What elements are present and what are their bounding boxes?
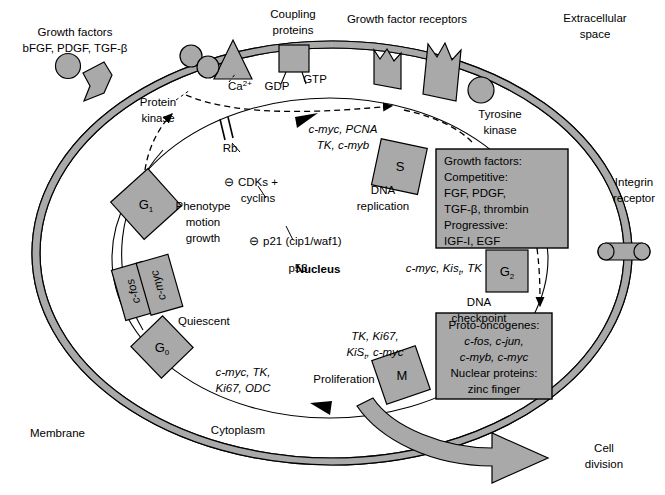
proto-oncogenes-box-line-3: Nuclear proteins: <box>451 367 538 379</box>
growth-factors-box-line-3: TGF-β, thrombin <box>444 203 529 215</box>
phenotype-label-line3: growth <box>186 232 221 244</box>
p21-inhibit-symbol: ⊖ <box>249 235 259 247</box>
dna-checkpoint-label-line2: checkpoint <box>452 312 508 324</box>
g0-genes-line1: c-myc, TK, <box>216 366 271 378</box>
growth-factors-box-line-1: Competitive: <box>444 171 508 183</box>
dna-replication-label-line2: replication <box>357 200 409 212</box>
dna-replication-label-line1: DNA <box>371 184 396 196</box>
growth-factor-receptors-label: Growth factor receptors <box>347 13 467 25</box>
cytoplasm-label: Cytoplasm <box>211 424 265 436</box>
growth-factors-box-line-2: FGF, PDGF, <box>444 187 506 199</box>
p21-label: p21 (cip1/waf1) <box>263 235 342 247</box>
cell-cycle-diagram-svg: G1 G0 S G2 M c-fos c-myc Growth factors:… <box>0 0 665 495</box>
protein-kinase-label-line2: kinase <box>141 112 174 124</box>
calcium-ion-label: Ca2+ <box>228 79 252 92</box>
cdks-inhibit-symbol: ⊖ <box>224 176 234 188</box>
quiescent-label: Quiescent <box>178 315 231 327</box>
growth-factor-receptor-small <box>374 49 401 89</box>
tyrosine-kinase-icon <box>468 77 494 103</box>
growth-factors-box-line-5: IGF-I, EGF <box>444 235 500 247</box>
cell-division-label-line2: division <box>585 458 623 470</box>
proto-oncogenes-box-line-4: zinc finger <box>468 383 521 395</box>
rb-label: Rb <box>223 142 238 154</box>
growth-factor-receptor-large <box>423 43 461 101</box>
g1-s-genes-line2: TK, c-myb <box>317 139 370 151</box>
growth-factor-ligand-icon <box>56 54 81 79</box>
integrin-receptor-label-line1: Integrin <box>615 176 653 188</box>
phase-box-g2[interactable]: G2 <box>486 250 528 292</box>
phenotype-label-line2: motion <box>186 216 221 228</box>
g1-s-genes-line1: c-myc, PCNA <box>309 123 378 135</box>
diagram-canvas: G1 G0 S G2 M c-fos c-myc Growth factors:… <box>0 0 665 495</box>
phase-box-s-label: S <box>396 159 405 174</box>
phenotype-label-line1: Phenotype <box>176 200 231 212</box>
growth-factors-label-line2: bFGF, PDGF, TGF-β <box>23 42 128 54</box>
cdks-label-line1: CDKs + <box>238 176 278 188</box>
proliferation-label: Proliferation <box>313 373 374 385</box>
cell-division-label-line1: Cell <box>594 442 614 454</box>
m-genes-line1: TK, Ki67, <box>351 330 398 342</box>
membrane-label: Membrane <box>30 427 85 439</box>
extracellular-space-label-line2: space <box>580 28 611 40</box>
gtp-label: GTP <box>303 73 327 85</box>
extracellular-space-label-line1: Extracellular <box>563 12 626 24</box>
cdks-label-line2: cyclins <box>241 192 276 204</box>
dna-checkpoint-label-line1: DNA <box>467 296 492 308</box>
gdp-label: GDP <box>265 80 290 92</box>
growth-factors-box-line-4: Progressive: <box>444 219 508 231</box>
integrin-receptor-icon <box>598 243 650 260</box>
tyrosine-kinase-label-line2: kinase <box>483 124 516 136</box>
phase-box-m-label: M <box>397 368 408 383</box>
growth-factors-label-line1: Growth factors <box>38 26 113 38</box>
coupling-proteins-label-line2: proteins <box>273 24 314 36</box>
tyrosine-kinase-label-line1: Tyrosine <box>478 108 521 120</box>
p53-label: p53 <box>288 262 307 274</box>
g0-genes-line2: Ki67, ODC <box>216 382 272 394</box>
integrin-receptor-label-line2: receptor <box>613 192 655 204</box>
proto-oncogenes-box-line-1: c-fos, c-jun, <box>464 335 523 347</box>
growth-factors-box-line-0: Growth factors: <box>444 155 522 167</box>
growth-factor-receptor-left <box>83 62 112 101</box>
calcium-ion-icon-2 <box>197 56 219 78</box>
growth-factors-info-box[interactable]: Growth factors: Competitive: FGF, PDGF, … <box>436 149 568 248</box>
proto-oncogenes-info-box[interactable]: Proto-oncogenes: c-fos, c-jun, c-myb, c-… <box>436 313 552 399</box>
coupling-proteins-label-line1: Coupling <box>270 8 315 20</box>
protein-kinase-label-line1: Protein <box>140 96 176 108</box>
proto-oncogenes-box-line-2: c-myb, c-myc <box>460 351 529 363</box>
